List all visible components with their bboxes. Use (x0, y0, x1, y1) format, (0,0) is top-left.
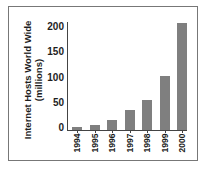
y-tick-200: 200 (40, 22, 64, 32)
x-tick-label-2000: 2000 (177, 133, 187, 153)
x-tick-label-1999: 1999 (160, 133, 170, 153)
y-axis-title-line1: Internet Hosts World Wide (22, 20, 33, 140)
x-tick-label-1994: 1994 (72, 133, 82, 153)
x-tick-label-1996: 1996 (107, 133, 117, 153)
bar-1996 (107, 120, 117, 130)
y-tick-0: 0 (40, 123, 64, 133)
bar-1999 (160, 76, 170, 130)
y-axis-line (67, 22, 68, 131)
x-axis-line (67, 130, 187, 131)
y-tick-50: 50 (40, 98, 64, 108)
y-tick-150: 150 (40, 47, 64, 57)
x-tick-label-1997: 1997 (125, 133, 135, 153)
bar-1998 (142, 100, 152, 130)
x-tick-label-1995: 1995 (90, 133, 100, 153)
y-tick-100: 100 (40, 73, 64, 83)
bar-1997 (125, 110, 135, 130)
bar-2000 (177, 23, 187, 130)
x-tick-label-1998: 1998 (142, 133, 152, 153)
